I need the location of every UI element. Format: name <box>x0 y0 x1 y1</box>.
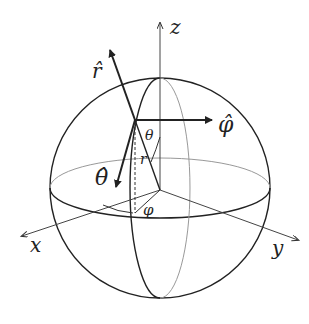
y-axis <box>160 190 298 240</box>
phi-label: φ <box>143 201 154 219</box>
x-label: x <box>30 233 41 257</box>
spherical-coordinates-diagram: z x y r̂ φ̂ θ̂ θ r φ <box>0 0 309 324</box>
y-label: y <box>271 236 284 260</box>
z-label: z <box>169 15 181 39</box>
r-hat-label: r̂ <box>92 59 103 83</box>
theta-label: θ <box>145 127 154 143</box>
phi-hat-label: φ̂ <box>218 112 234 137</box>
theta-hat-label: θ̂ <box>95 165 108 190</box>
theta-hat-vector <box>116 120 135 187</box>
equator-front <box>50 188 270 218</box>
phi-arc <box>103 205 133 213</box>
x-axis <box>22 190 160 236</box>
r-hat-vector <box>110 50 135 120</box>
meridian-back <box>160 78 190 298</box>
